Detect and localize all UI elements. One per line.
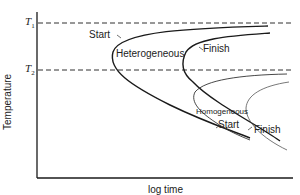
heterogeneous-label: Heterogeneous [116,49,184,59]
homogeneous-label: Homogeneous [196,108,248,116]
ttt-diagram-canvas [0,0,300,195]
het-finish-label: Finish [203,44,230,54]
hom-finish-leader [248,127,252,130]
y-axis-label: Temperature [2,74,13,130]
hom-start-label: Start [218,120,239,130]
t1-label: T1 [25,16,35,30]
hom-finish-label: Finish [254,125,281,135]
het-start-leader [117,35,121,38]
t1-label-sub: 1 [31,22,35,30]
heterogeneous-start-curve [112,26,268,138]
het-start-label: Start [89,30,110,40]
t2-label-sub: 2 [31,69,35,77]
t2-label: T2 [25,63,35,77]
x-axis-label: log time [148,185,183,195]
homogeneous-finish-curve [246,82,289,150]
